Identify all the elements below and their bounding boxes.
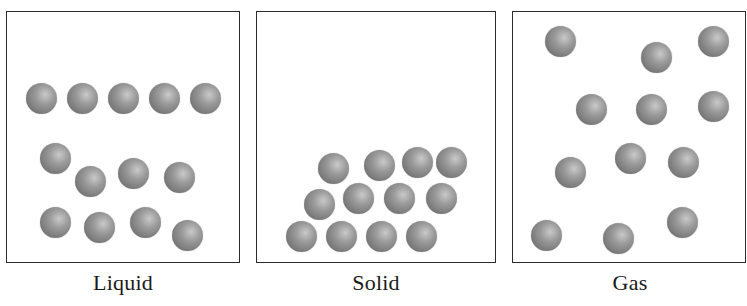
solid-particle	[406, 221, 437, 252]
gas-particle	[603, 223, 634, 254]
solid-particle	[318, 153, 349, 184]
liquid-particle	[40, 207, 71, 238]
liquid-particle	[40, 143, 71, 174]
gas-particle	[667, 207, 698, 238]
liquid-particle	[172, 220, 203, 251]
solid-particle	[402, 147, 433, 178]
gas-particle	[615, 143, 646, 174]
liquid-particle	[26, 83, 57, 114]
gas-particle	[555, 157, 586, 188]
gas-particle	[698, 91, 729, 122]
solid-particle	[343, 183, 374, 214]
gas-label: Gas	[570, 270, 690, 296]
liquid-label: Liquid	[63, 270, 183, 296]
liquid-particle	[118, 158, 149, 189]
gas-particle	[545, 26, 576, 57]
solid-label: Solid	[316, 270, 436, 296]
gas-particle	[531, 220, 562, 251]
liquid-particle	[149, 83, 180, 114]
liquid-particle	[190, 83, 221, 114]
liquid-particle	[75, 166, 106, 197]
solid-particle	[366, 221, 397, 252]
gas-particle	[576, 94, 607, 125]
liquid-particle	[67, 83, 98, 114]
solid-particle	[286, 221, 317, 252]
liquid-particle	[108, 83, 139, 114]
solid-particle	[436, 147, 467, 178]
gas-particle	[641, 42, 672, 73]
solid-particle	[384, 183, 415, 214]
gas-particle	[668, 147, 699, 178]
liquid-particle	[84, 212, 115, 243]
solid-particle	[304, 189, 335, 220]
solid-particle	[426, 183, 457, 214]
liquid-particle	[130, 207, 161, 238]
liquid-particle	[164, 162, 195, 193]
solid-particle	[326, 221, 357, 252]
solid-particle	[364, 150, 395, 181]
gas-particle	[636, 94, 667, 125]
gas-particle	[698, 26, 729, 57]
